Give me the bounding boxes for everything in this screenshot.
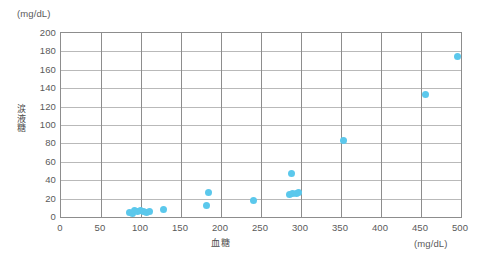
x-tick-label: 0 <box>40 222 80 233</box>
data-point <box>295 189 302 196</box>
data-point <box>422 91 429 98</box>
x-axis-unit-label: (mg/dL) <box>414 238 447 249</box>
gridline-vertical <box>261 33 262 217</box>
gridline-vertical <box>141 33 142 217</box>
data-point <box>454 53 461 60</box>
x-axis-title: 血糖 <box>0 236 483 249</box>
x-tick-label: 350 <box>320 222 360 233</box>
x-tick-label: 150 <box>160 222 200 233</box>
data-point <box>250 197 257 204</box>
y-tick-label: 160 <box>12 63 56 74</box>
x-tick-label: 400 <box>360 222 400 233</box>
y-tick-label: 140 <box>12 82 56 93</box>
y-tick-label: 180 <box>12 45 56 56</box>
x-tick-label: 450 <box>400 222 440 233</box>
x-tick-label: 500 <box>440 222 480 233</box>
y-axis-unit-label: (mg/dL) <box>17 8 50 19</box>
x-tick-label: 50 <box>80 222 120 233</box>
data-point <box>288 170 295 177</box>
gridline-vertical <box>341 33 342 217</box>
y-tick-label: 0 <box>12 211 56 222</box>
data-point <box>146 208 153 215</box>
y-tick-label: 20 <box>12 192 56 203</box>
gridline-vertical <box>421 33 422 217</box>
data-point <box>160 206 167 213</box>
data-point <box>205 189 212 196</box>
y-tick-label: 120 <box>12 100 56 111</box>
gridline-vertical <box>101 33 102 217</box>
y-tick-label: 80 <box>12 137 56 148</box>
x-tick-label: 200 <box>200 222 240 233</box>
plot-area <box>60 32 462 218</box>
y-tick-label: 40 <box>12 174 56 185</box>
gridline-vertical <box>221 33 222 217</box>
data-point <box>203 202 210 209</box>
gridline-vertical <box>181 33 182 217</box>
y-tick-label: 200 <box>12 27 56 38</box>
x-tick-label: 100 <box>120 222 160 233</box>
y-axis-tick-labels: 020406080100120140160180200 <box>10 32 56 218</box>
gridline-vertical <box>381 33 382 217</box>
x-tick-label: 250 <box>240 222 280 233</box>
data-point <box>340 137 347 144</box>
y-tick-label: 100 <box>12 119 56 130</box>
y-tick-label: 60 <box>12 155 56 166</box>
scatter-chart: (mg/dL) 涙液糖 020406080100120140160180200 … <box>0 0 483 258</box>
x-axis-tick-labels: 050100150200250300350400450500 <box>60 222 462 236</box>
x-tick-label: 300 <box>280 222 320 233</box>
